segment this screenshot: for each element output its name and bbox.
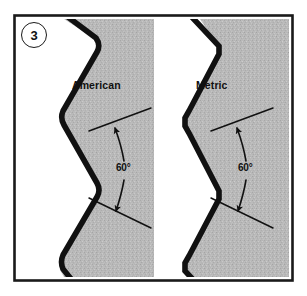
metric-panel-title: Metric — [196, 80, 228, 91]
figure-number-badge: 3 — [21, 22, 47, 48]
figure-illustration — [0, 0, 307, 296]
american-angle-label: 60° — [116, 163, 131, 173]
american-panel-title: American — [72, 80, 121, 91]
thread-profile-figure: 3 American Metric 60° 60° — [0, 0, 307, 296]
metric-angle-label: 60° — [238, 163, 253, 173]
